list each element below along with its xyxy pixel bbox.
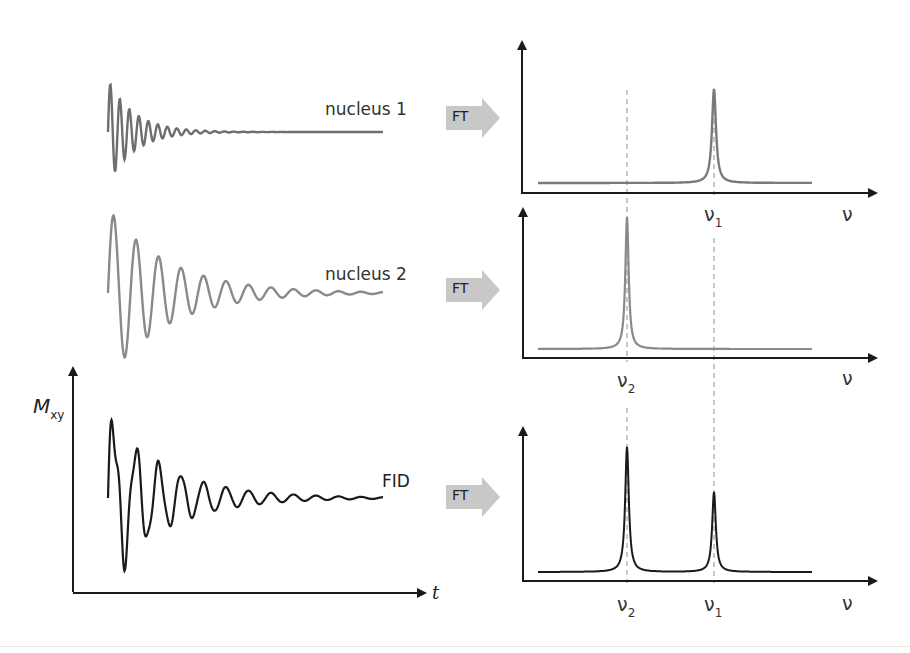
ft-label-3: FT [452, 487, 468, 503]
nu-axis-label-panel1: ν [842, 203, 853, 225]
combined-fid-curve [108, 420, 383, 571]
nucleus-1-fid-curve [108, 85, 383, 172]
nmr-fid-diagram [0, 0, 910, 653]
nu-axis-label-panel3: ν [842, 592, 853, 614]
nucleus-2-fid-curve [108, 216, 383, 358]
mxy-main: M [33, 394, 50, 418]
nu1-label-panel1: ν1 [704, 203, 722, 230]
bottom-divider [0, 646, 910, 647]
fid-spectrum [538, 447, 812, 572]
nucleus-1-spectrum [538, 89, 812, 183]
nucleus-2-label: nucleus 2 [325, 264, 407, 284]
mxy-subscript: xy [50, 408, 64, 422]
ft-label-2: FT [452, 280, 468, 296]
mxy-axis-label: Mxy [33, 394, 64, 422]
nucleus-2-spectrum [538, 217, 812, 349]
ft-label-1: FT [452, 108, 468, 124]
nu2-label-panel3: ν2 [617, 593, 635, 620]
nu-axis-label-panel2: ν [842, 367, 853, 389]
nucleus-1-label: nucleus 1 [325, 99, 407, 119]
nu2-label-panel2: ν2 [617, 369, 635, 396]
fid-label: FID [382, 471, 410, 491]
nu1-label-panel3: ν1 [704, 593, 722, 620]
t-axis-label: t [432, 582, 439, 603]
